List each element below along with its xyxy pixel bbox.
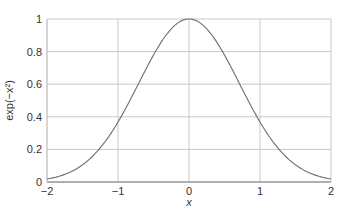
y-tick-label: 0.6 xyxy=(27,78,42,90)
y-tick-label: 0 xyxy=(36,176,42,188)
x-tick-label: −2 xyxy=(41,185,54,197)
x-tick-label: −1 xyxy=(112,185,125,197)
grid-lines xyxy=(47,19,331,182)
y-tick-label: 1 xyxy=(36,13,42,25)
y-tick-labels: 00.20.40.60.81 xyxy=(27,13,42,188)
x-axis-label: x xyxy=(185,196,192,208)
x-tick-label: 2 xyxy=(328,185,334,197)
y-tick-label: 0.8 xyxy=(27,46,42,58)
x-tick-label: 1 xyxy=(257,185,263,197)
gaussian-chart: −2−1012 00.20.40.60.81 x exp(−x²) xyxy=(0,0,344,212)
y-axis-label: exp(−x²) xyxy=(3,80,15,121)
y-tick-label: 0.2 xyxy=(27,143,42,155)
y-tick-label: 0.4 xyxy=(27,111,42,123)
